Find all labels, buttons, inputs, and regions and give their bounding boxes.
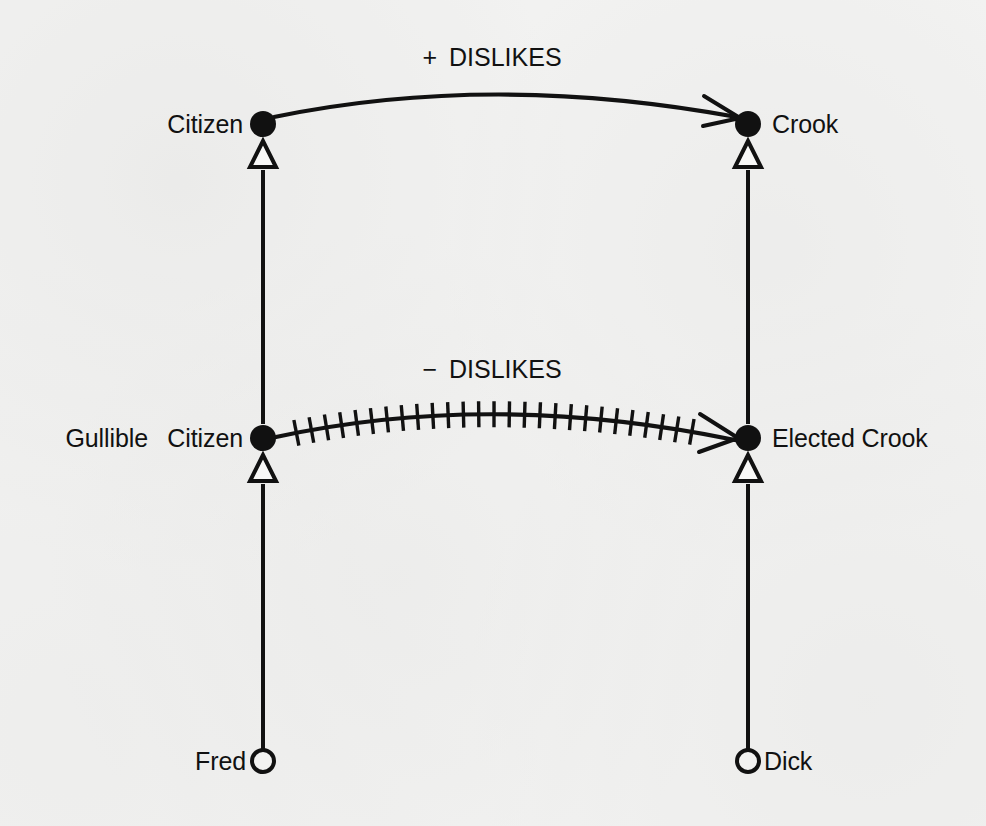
node-fred[interactable]	[252, 750, 274, 772]
hollow-triangle-arrowhead-icon	[735, 455, 761, 481]
hatch-mark	[432, 403, 433, 429]
relation-sign-plus: +	[422, 43, 449, 71]
node-label-fred: Fred	[195, 747, 246, 776]
isa-link-fred-to-gullible-citizen	[250, 455, 276, 750]
node-elected-crook[interactable]	[735, 425, 761, 451]
node-dick[interactable]	[737, 750, 759, 772]
hatch-mark	[386, 406, 389, 432]
node-label-crook: Crook	[772, 110, 838, 139]
relation-label-dislikes-negative: −DISLIKES	[422, 355, 561, 384]
hatch-mark	[675, 417, 679, 443]
relation-name-dislikes-negative: DISLIKES	[449, 355, 562, 383]
hatch-mark	[463, 402, 464, 428]
node-label-elected-crook: Elected Crook	[772, 424, 928, 453]
hatch-mark	[690, 419, 694, 445]
hatch-mark	[370, 408, 373, 434]
hollow-triangle-arrowhead-icon	[250, 141, 276, 167]
isa-link-dick-to-elected-crook	[735, 455, 761, 750]
hatch-mark	[324, 415, 328, 441]
hatch-mark	[401, 405, 403, 431]
relation-name-dislikes-positive: DISLIKES	[449, 43, 562, 71]
relation-arc-dislikes-positive	[274, 95, 740, 127]
hatch-mark	[585, 405, 587, 431]
relation-sign-minus: −	[422, 355, 449, 383]
hatch-mark	[448, 402, 449, 428]
diagram-canvas: Citizen Crook Gullible Citizen Elected C…	[0, 0, 986, 826]
node-label-gullible: Gullible	[65, 424, 148, 453]
hatch-mark	[630, 410, 633, 436]
hatch-mark	[600, 407, 603, 433]
hatch-mark	[539, 402, 540, 428]
node-label-citizen: Citizen	[167, 110, 243, 139]
hatch-mark	[615, 408, 618, 434]
isa-link-gullible-citizen-to-citizen	[250, 141, 276, 424]
hatch-mark	[309, 417, 314, 443]
node-citizen[interactable]	[250, 111, 276, 137]
hatch-mark	[417, 404, 419, 430]
hatch-mark	[524, 402, 525, 428]
hatch-mark	[645, 412, 648, 438]
hatch-mark	[340, 412, 344, 438]
node-label-dick: Dick	[764, 747, 812, 776]
isa-link-elected-crook-to-crook	[735, 141, 761, 424]
relation-arc-dislikes-negative	[276, 401, 738, 452]
hatch-mark	[554, 403, 555, 429]
relation-label-dislikes-positive: +DISLIKES	[422, 43, 561, 72]
hatch-mark	[355, 410, 358, 436]
hollow-triangle-arrowhead-icon	[250, 455, 276, 481]
arrowhead-stroke-lower	[699, 438, 738, 452]
node-label-gullible-citizen: Citizen	[167, 424, 243, 453]
node-crook[interactable]	[735, 111, 761, 137]
node-gullible-citizen[interactable]	[250, 425, 276, 451]
hatch-mark	[570, 404, 572, 430]
hollow-triangle-arrowhead-icon	[735, 141, 761, 167]
hatch-mark	[660, 414, 664, 440]
arrowhead-stroke-lower	[703, 118, 740, 126]
